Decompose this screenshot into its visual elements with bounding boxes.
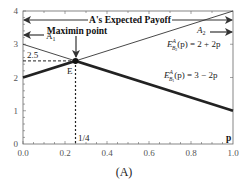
y-guide-label: 2.5 [27, 50, 39, 60]
x-tick-5: 1.0 [227, 148, 239, 158]
y-tick-3: 3 [14, 39, 19, 49]
p-axis-label: p [226, 133, 231, 143]
maximin-envelope [23, 61, 233, 111]
y-tick-1: 1 [14, 106, 19, 116]
x-tick-2: 0.4 [101, 148, 113, 158]
x-guide-label: 1/4 [78, 133, 90, 143]
x-tick-0: 0.0 [17, 148, 29, 158]
formula-b1: EAB1(p) = 3 − 2p [163, 69, 218, 83]
y-tick-2: 2 [14, 73, 19, 83]
x-tick-4: 0.8 [185, 148, 197, 158]
figure-caption: (A) [116, 165, 133, 179]
x-tick-1: 0.2 [59, 148, 70, 158]
payoff-chart: 4 3 2 1 0 0.0 0.2 0.4 0.6 0.8 1.0 E 2.5 … [0, 0, 248, 188]
a2-label: A2 [196, 25, 206, 36]
x-tick-3: 0.6 [143, 148, 155, 158]
y-tick-4: 4 [14, 6, 19, 16]
point-e-marker [73, 58, 79, 64]
expected-payoff-label: A's Expected Payoff [89, 15, 172, 25]
maximin-label: Maximin point [47, 26, 108, 36]
formula-b2: EAB2(p) = 2 + 2p [166, 38, 221, 52]
point-e-label: E [67, 66, 73, 76]
